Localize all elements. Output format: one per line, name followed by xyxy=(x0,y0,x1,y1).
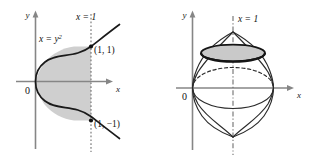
origin-label: 0 xyxy=(25,85,30,96)
cavity-outline-lower-right xyxy=(233,88,274,137)
x-axis-label: x xyxy=(296,90,301,100)
shaded-region xyxy=(36,47,92,121)
x-axis-arrowhead xyxy=(287,85,294,91)
point-label-upper: (1, 1) xyxy=(94,45,115,56)
axis-of-revolution-label: x = 1 xyxy=(237,14,258,24)
figure-container: y x 0 x = y2 x = 1 (1, 1) (1, −1) xyxy=(0,0,324,165)
right-panel-solid-of-revolution: y x 0 x = 1 xyxy=(162,0,324,165)
left-panel-plane-region: y x 0 x = y2 x = 1 (1, 1) (1, −1) xyxy=(0,0,162,165)
y-axis-arrowhead xyxy=(33,11,39,18)
point-label-lower: (1, −1) xyxy=(94,119,120,130)
parabola-equation-exponent: 2 xyxy=(59,33,63,40)
y-axis-label: y xyxy=(25,10,30,20)
parabola-equation-label: x = y2 xyxy=(38,33,63,44)
y-axis-arrowhead xyxy=(190,11,196,18)
y-axis-label: y xyxy=(182,10,187,20)
x-axis-label: x xyxy=(115,84,120,94)
parabola-equation-text: x = y xyxy=(38,34,59,44)
cavity-outline-lower-left xyxy=(193,88,234,137)
point-marker-upper xyxy=(89,44,93,48)
origin-label: 0 xyxy=(182,91,187,102)
point-marker-lower xyxy=(89,118,93,122)
x-axis-arrowhead xyxy=(106,79,113,85)
vertical-line-label: x = 1 xyxy=(75,12,96,22)
